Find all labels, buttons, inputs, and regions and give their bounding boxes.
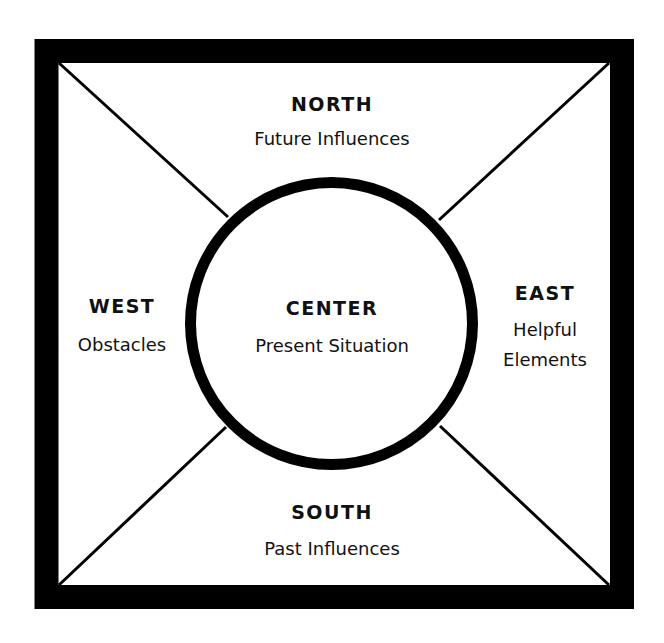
south-heading: SOUTH <box>291 502 373 522</box>
center-description: Present Situation <box>255 331 409 360</box>
north-heading: NORTH <box>291 94 373 114</box>
west-description: Obstacles <box>78 330 166 359</box>
diagonal-sw <box>59 427 226 585</box>
center-heading: CENTER <box>286 298 378 318</box>
center-circle <box>191 183 473 465</box>
diagonal-nw <box>59 63 228 217</box>
north-description: Future Influences <box>254 124 409 153</box>
east-description-line1: Helpful <box>513 315 577 344</box>
diagonal-se <box>440 426 609 585</box>
west-heading: WEST <box>89 296 156 316</box>
south-description: Past Influences <box>264 534 400 563</box>
east-description-line2: Elements <box>503 345 587 374</box>
east-heading: EAST <box>515 283 575 303</box>
diagonal-ne <box>439 63 609 220</box>
